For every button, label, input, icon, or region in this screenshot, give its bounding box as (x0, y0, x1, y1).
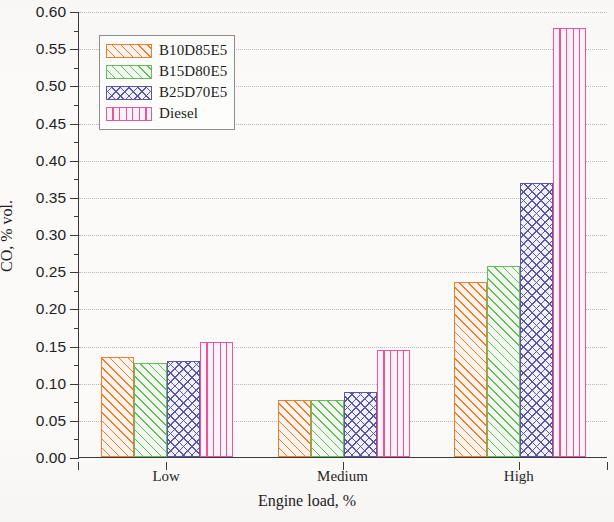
legend-item-b10d85e5: B10D85E5 (106, 40, 227, 61)
chart-figure: CO, % vol. 0.000.050.100.150.200.250.300… (0, 0, 614, 522)
bar-b25d70e5-medium (344, 392, 377, 457)
legend-label: Diesel (159, 105, 198, 122)
y-axis-tick-label: 0.35 (36, 189, 66, 207)
y-axis-minor-tick (74, 216, 79, 217)
y-axis-tick (70, 161, 79, 162)
bar-b15d80e5-medium (311, 400, 344, 457)
x-axis-categories: LowMediumHigh (78, 462, 607, 488)
y-axis-minor-tick (74, 254, 79, 255)
y-axis-tick-label: 0.60 (36, 3, 66, 21)
x-axis-category-label: Medium (317, 468, 368, 485)
x-axis-category-label: Low (152, 468, 180, 485)
bar-b10d85e5-medium (278, 400, 311, 457)
y-axis-tick (70, 421, 79, 422)
legend-swatch-b15d80e5 (106, 65, 152, 79)
y-axis-tick (70, 272, 79, 273)
x-axis-edge-tick (78, 462, 79, 470)
y-axis-tick-label: 0.05 (36, 412, 66, 430)
y-axis-tick (70, 384, 79, 385)
legend-swatch-b25d70e5 (106, 86, 152, 100)
y-axis-minor-tick (74, 291, 79, 292)
y-axis-minor-tick (74, 31, 79, 32)
legend-swatch-b10d85e5 (106, 44, 152, 58)
y-axis-tick (70, 124, 79, 125)
y-axis-minor-tick (74, 179, 79, 180)
y-axis-minor-tick (74, 365, 79, 366)
y-axis-tick (70, 235, 79, 236)
bar-b15d80e5-low (134, 363, 167, 457)
legend-swatch-diesel (106, 107, 152, 121)
y-axis-tick-label: 0.10 (36, 375, 66, 393)
y-axis-tick-label: 0.45 (36, 115, 66, 133)
legend-label: B15D80E5 (159, 63, 227, 80)
legend-label: B25D70E5 (159, 84, 227, 101)
y-axis-tick-label: 0.30 (36, 226, 66, 244)
y-axis-tick-label: 0.00 (36, 449, 66, 467)
y-axis-tick-label: 0.20 (36, 300, 66, 318)
x-axis-category-label: High (504, 468, 534, 485)
bar-diesel-medium (377, 350, 410, 457)
bar-b25d70e5-high (520, 183, 553, 457)
y-axis-tick (70, 309, 79, 310)
y-axis-tick (70, 458, 79, 459)
y-axis-minor-tick (74, 402, 79, 403)
legend-item-b25d70e5: B25D70E5 (106, 82, 227, 103)
y-axis-minor-tick (74, 439, 79, 440)
y-axis-minor-tick (74, 142, 79, 143)
y-axis-tick-labels: 0.000.050.100.150.200.250.300.350.400.45… (0, 0, 78, 522)
x-axis-title: Engine load, % (0, 492, 614, 510)
y-axis-tick-label: 0.50 (36, 77, 66, 95)
bar-diesel-low (200, 342, 233, 457)
y-axis-tick-label: 0.15 (36, 338, 66, 356)
y-axis-tick-label: 0.25 (36, 263, 66, 281)
y-axis-tick (70, 12, 79, 13)
bar-b15d80e5-high (487, 266, 520, 457)
bar-diesel-high (553, 28, 586, 457)
legend-label: B10D85E5 (159, 42, 227, 59)
bar-b10d85e5-high (454, 282, 487, 457)
y-axis-tick-label: 0.55 (36, 40, 66, 58)
y-axis-tick (70, 49, 79, 50)
y-axis-tick (70, 347, 79, 348)
bar-b10d85e5-low (101, 357, 134, 457)
y-axis-tick (70, 86, 79, 87)
bar-b25d70e5-low (167, 361, 200, 457)
x-axis-edge-tick (607, 462, 608, 470)
y-axis-minor-tick (74, 105, 79, 106)
legend-item-b15d80e5: B15D80E5 (106, 61, 227, 82)
y-axis-minor-tick (74, 68, 79, 69)
legend-item-diesel: Diesel (106, 103, 227, 124)
y-axis-tick-label: 0.40 (36, 152, 66, 170)
y-axis-minor-tick (74, 328, 79, 329)
chart-legend: B10D85E5B15D80E5B25D70E5Diesel (99, 35, 235, 130)
y-axis-tick (70, 198, 79, 199)
